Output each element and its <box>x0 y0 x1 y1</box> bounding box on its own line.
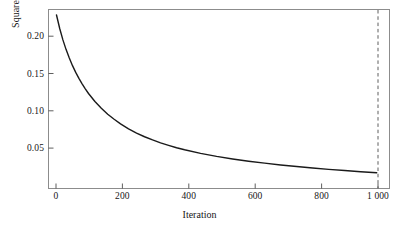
chart-figure: 0.20 0.15 0.10 0.05 0 200 400 600 800 1 … <box>0 0 399 227</box>
plot-frame <box>49 10 390 189</box>
x-tick-label: 1 000 <box>367 191 389 201</box>
x-tick-label: 400 <box>182 191 197 201</box>
x-axis-label: Iteration <box>0 209 399 220</box>
x-tick-label: 200 <box>115 191 130 201</box>
x-tick-label: 600 <box>248 191 263 201</box>
y-axis-label: Squared error loss <box>10 0 26 105</box>
chart-canvas <box>0 0 399 227</box>
y-tick-label: 0.10 <box>8 106 44 116</box>
x-tick-label: 800 <box>314 191 329 201</box>
x-tick-label: 0 <box>54 191 59 201</box>
y-tick-label: 0.05 <box>8 143 44 153</box>
